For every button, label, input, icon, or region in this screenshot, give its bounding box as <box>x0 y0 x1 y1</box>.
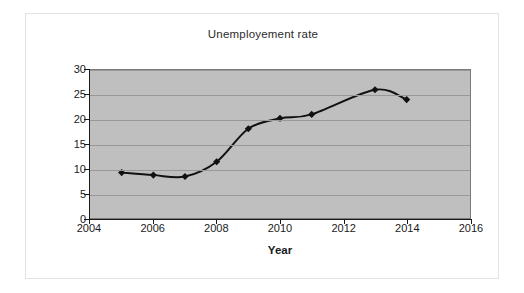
x-tick-mark-2014 <box>407 219 408 224</box>
y-axis-line <box>89 69 90 220</box>
data-point-2006 <box>150 172 157 179</box>
x-tick-mark-2016 <box>471 219 472 224</box>
gridline-y-10 <box>90 170 470 171</box>
x-tick-label-2004: 2004 <box>66 223 112 234</box>
plot-area <box>89 69 471 219</box>
y-tick-mark-10 <box>84 169 89 170</box>
gridline-y-5 <box>90 195 470 196</box>
x-tick-label-2006: 2006 <box>130 223 176 234</box>
y-tick-mark-30 <box>84 69 89 70</box>
y-tick-label-5: 5 <box>60 189 86 200</box>
y-tick-mark-25 <box>84 94 89 95</box>
x-tick-label-2014: 2014 <box>384 223 430 234</box>
y-axis-tick-labels: 051015202530 <box>56 69 86 219</box>
data-point-2007 <box>181 173 188 180</box>
gridline-y-30 <box>90 70 470 71</box>
y-tick-label-20: 20 <box>60 114 86 125</box>
y-tick-mark-15 <box>84 144 89 145</box>
x-tick-mark-2012 <box>344 219 345 224</box>
gridline-y-20 <box>90 120 470 121</box>
series-path <box>122 89 407 177</box>
y-tick-mark-5 <box>84 194 89 195</box>
gridline-y-15 <box>90 145 470 146</box>
chart-frame: Unemployement rate Unemployment rate (%)… <box>25 13 499 279</box>
data-point-2013 <box>371 86 378 93</box>
data-point-2011 <box>308 111 315 118</box>
gridline-y-25 <box>90 95 470 96</box>
x-axis-tick-labels: 2004200620082010201220142016 <box>89 223 471 243</box>
x-tick-mark-2004 <box>89 219 90 224</box>
x-tick-mark-2006 <box>153 219 154 224</box>
x-tick-mark-2010 <box>280 219 281 224</box>
x-tick-label-2016: 2016 <box>448 223 494 234</box>
chart-title: Unemployement rate <box>26 28 500 40</box>
y-tick-label-10: 10 <box>60 164 86 175</box>
x-tick-label-2010: 2010 <box>257 223 303 234</box>
chart-figure: Unemployement rate Unemployment rate (%)… <box>0 0 524 293</box>
x-tick-mark-2008 <box>216 219 217 224</box>
x-tick-label-2012: 2012 <box>321 223 367 234</box>
data-point-2014 <box>403 96 410 103</box>
y-tick-label-30: 30 <box>60 64 86 75</box>
x-tick-label-2008: 2008 <box>193 223 239 234</box>
y-tick-mark-20 <box>84 119 89 120</box>
y-tick-label-25: 25 <box>60 89 86 100</box>
x-axis-title: Year <box>89 244 471 256</box>
y-tick-label-15: 15 <box>60 139 86 150</box>
